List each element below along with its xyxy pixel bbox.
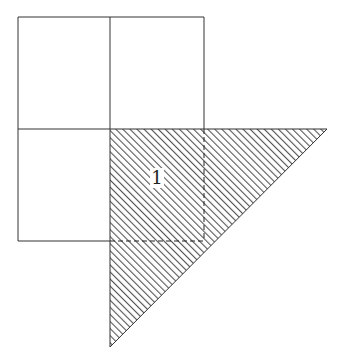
geometry-diagram: 1 (0, 0, 340, 357)
region-label: 1 (151, 167, 162, 188)
hatched-triangle (110, 129, 327, 347)
